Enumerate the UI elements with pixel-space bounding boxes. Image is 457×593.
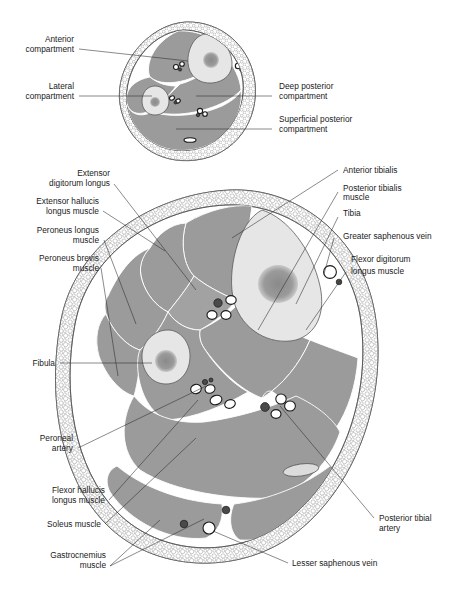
svg-text:compartment: compartment <box>279 124 328 134</box>
posterior-midline-artery <box>222 506 230 514</box>
svg-text:Lateral: Lateral <box>49 81 75 91</box>
svg-text:longus muscle: longus muscle <box>52 495 105 505</box>
label-extensor-hallucis-longus-muscle: Extensor hallucis longus muscle <box>36 196 99 216</box>
svg-text:Gastrocnemius: Gastrocnemius <box>50 550 106 560</box>
lesser-saphenous-vein-vessel <box>203 522 215 534</box>
label-deep-posterior-compartment: Deep posterior compartment <box>279 81 334 101</box>
sural-artery-marker <box>180 520 188 528</box>
label-greater-saphenous-vein: Greater saphenous vein <box>343 231 432 241</box>
label-flexor-hallucis-longus-muscle: Flexor hallucis longus muscle <box>52 485 105 505</box>
svg-text:Lesser saphenous vein: Lesser saphenous vein <box>292 558 378 568</box>
tibia-marrow-cavity <box>258 265 298 303</box>
svg-text:muscle: muscle <box>73 235 100 245</box>
upper-lesser-saphenous-vein <box>184 138 196 143</box>
svg-text:artery: artery <box>379 523 401 533</box>
label-tibia: Tibia <box>343 208 361 218</box>
svg-text:Posterior tibial: Posterior tibial <box>379 513 432 523</box>
upper-fibula-marrow <box>150 97 160 107</box>
svg-text:Soleus muscle: Soleus muscle <box>47 519 101 529</box>
svg-text:compartment: compartment <box>26 44 75 54</box>
leg-cross-section-figure: Anterior compartment Lateral compartment… <box>0 0 457 593</box>
label-soleus-muscle: Soleus muscle <box>47 519 101 529</box>
svg-text:Anterior: Anterior <box>45 34 74 44</box>
svg-text:Superficial posterior: Superficial posterior <box>279 114 353 124</box>
svg-text:artery: artery <box>52 443 74 453</box>
svg-text:Peroneus brevis: Peroneus brevis <box>39 253 99 263</box>
svg-text:Flexor hallucis: Flexor hallucis <box>52 485 105 495</box>
svg-text:Flexor digitorum: Flexor digitorum <box>351 254 411 264</box>
label-lesser-saphenous-vein: Lesser saphenous vein <box>292 558 378 568</box>
upper-tibia-marrow <box>203 52 219 68</box>
label-anterior-tibialis: Anterior tibialis <box>343 165 397 175</box>
svg-text:longus muscle: longus muscle <box>46 206 99 216</box>
svg-text:muscle: muscle <box>343 192 370 202</box>
label-fibula: Fibula <box>32 358 55 368</box>
fibula-marrow-cavity <box>155 350 177 372</box>
svg-text:muscle: muscle <box>80 560 107 570</box>
svg-text:compartment: compartment <box>279 91 328 101</box>
svg-text:Extensor: Extensor <box>77 168 110 178</box>
svg-text:Extensor hallucis: Extensor hallucis <box>36 196 99 206</box>
svg-text:muscle: muscle <box>73 263 100 273</box>
svg-text:digitorum longus: digitorum longus <box>49 178 110 188</box>
svg-text:Peroneus longus: Peroneus longus <box>37 225 99 235</box>
svg-text:compartment: compartment <box>26 91 75 101</box>
svg-text:Greater saphenous vein: Greater saphenous vein <box>343 231 432 241</box>
svg-text:Deep posterior: Deep posterior <box>279 81 334 91</box>
svg-text:Peroneal: Peroneal <box>40 433 73 443</box>
svg-text:Fibula: Fibula <box>32 358 55 368</box>
svg-text:longus muscle: longus muscle <box>351 266 404 276</box>
svg-text:Tibia: Tibia <box>343 208 361 218</box>
svg-text:Anterior tibialis: Anterior tibialis <box>343 165 397 175</box>
